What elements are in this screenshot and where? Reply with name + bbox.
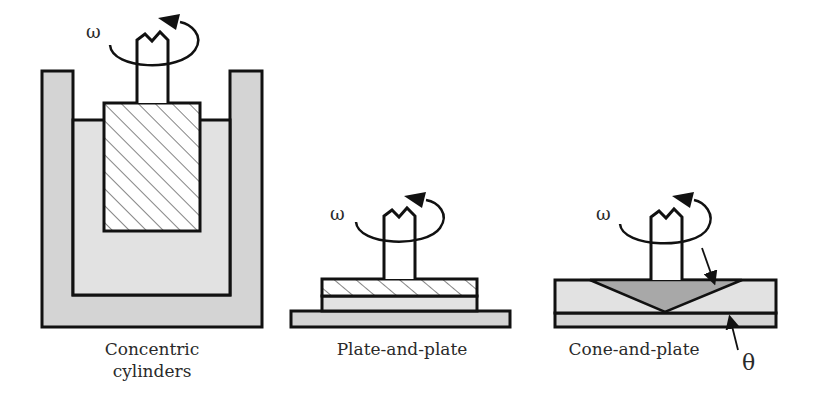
shaft: [384, 208, 415, 279]
base-plate: [555, 313, 776, 327]
caption: Concentric: [105, 339, 200, 359]
arrowhead-icon: [672, 192, 694, 208]
omega-label: ω: [596, 203, 611, 224]
panel-concentric-cylinders: ω Concentric cylinders: [42, 14, 262, 381]
panel-plate-and-plate: ω Plate-and-plate: [291, 192, 510, 359]
arrowhead-icon: [404, 192, 426, 208]
caption-line2: cylinders: [113, 361, 192, 381]
omega-label: ω: [330, 203, 345, 224]
rheometer-diagram: ω Concentric cylinders ω Plate-and-plate…: [0, 0, 816, 399]
bob: [104, 103, 200, 231]
angle-arrow-top-icon: [702, 248, 714, 282]
top-plate: [322, 279, 477, 296]
caption: Plate-and-plate: [337, 339, 468, 359]
theta-label: θ: [742, 350, 755, 375]
shaft: [137, 32, 168, 103]
base-plate: [291, 311, 510, 327]
omega-label: ω: [86, 21, 101, 42]
caption: Cone-and-plate: [568, 339, 699, 359]
panel-cone-and-plate: ω θ Cone-and-plate: [555, 192, 776, 375]
fluid: [322, 296, 477, 311]
arrowhead-icon: [158, 14, 180, 30]
